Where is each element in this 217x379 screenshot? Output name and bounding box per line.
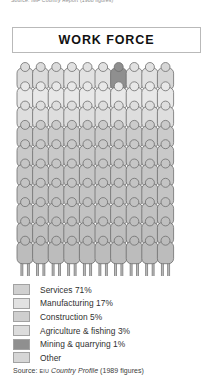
legend-swatch-services: [13, 284, 30, 295]
bottom-source-prefix: Source:: [13, 367, 39, 374]
legend-item-construction[interactable]: Construction 5%: [13, 310, 209, 324]
top-source-caption: Source: IMF Country Report (1988 figures…: [11, 0, 113, 3]
top-source-suffix: (1988 figures): [78, 0, 113, 3]
worker-figure-icon: [48, 236, 64, 276]
legend-swatch-construction: [13, 311, 30, 322]
chart-title-box: WORK FORCE: [12, 27, 201, 53]
bottom-source-suffix: (1989 figures): [98, 367, 144, 374]
legend-swatch-manufacturing: [13, 298, 30, 309]
worker-figure-icon: [79, 236, 95, 276]
worker-figure-icon: [126, 236, 142, 276]
page-title: WORK FORCE: [59, 33, 155, 47]
worker-figure-icon: [64, 236, 80, 276]
legend-label-services: Services 71%: [40, 285, 92, 295]
worker-figure-icon: [111, 236, 127, 276]
legend-item-manufacturing[interactable]: Manufacturing 17%: [13, 297, 209, 311]
legend-item-other[interactable]: Other: [13, 351, 209, 365]
legend-label-construction: Construction 5%: [40, 312, 102, 322]
workforce-pictogram: [0, 60, 217, 276]
pictogram-svg: [0, 60, 217, 276]
legend-item-mining[interactable]: Mining & quarrying 1%: [13, 337, 209, 351]
legend-label-agriculture: Agriculture & fishing 3%: [40, 326, 130, 336]
legend-label-other: Other: [40, 353, 61, 363]
pictogram-row: [17, 236, 174, 276]
legend-swatch-agriculture: [13, 325, 30, 336]
bottom-source-org: EIU: [39, 368, 49, 374]
legend-item-agriculture[interactable]: Agriculture & fishing 3%: [13, 324, 209, 338]
worker-figure-icon: [17, 236, 33, 276]
legend-swatch-other: [13, 352, 30, 363]
worker-figure-icon: [157, 236, 173, 276]
legend-label-mining: Mining & quarrying 1%: [40, 339, 125, 349]
top-source-prefix: Source:: [11, 0, 31, 3]
legend-swatch-mining: [13, 339, 30, 350]
bottom-source-publication: Country Profile: [49, 367, 98, 374]
legend-item-services[interactable]: Services 71%: [13, 283, 209, 297]
worker-figure-icon: [95, 236, 111, 276]
worker-figure-icon: [33, 236, 49, 276]
bottom-source-caption: Source: EIU Country Profile (1989 figure…: [13, 367, 144, 374]
chart-legend: Services 71% Manufacturing 17% Construct…: [13, 283, 209, 365]
worker-figure-icon: [142, 236, 158, 276]
top-source-publication: IMF Country Report: [31, 0, 78, 3]
legend-label-manufacturing: Manufacturing 17%: [40, 298, 113, 308]
